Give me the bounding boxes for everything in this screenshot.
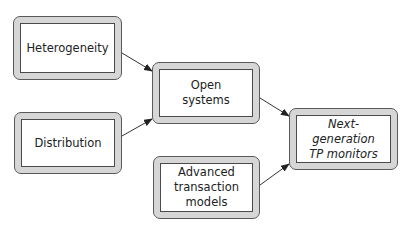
edge-open-systems-to-next-gen [260,98,289,116]
edge-advanced-to-next-gen [260,164,289,185]
node-label: Open systems [182,78,230,108]
node-advanced-transaction-models: Advanced transaction models [153,156,260,219]
node-open-systems: Open systems [152,62,260,124]
node-next-generation-tp-monitors: Next-generation TP monitors [289,108,398,170]
node-label: Heterogeneity [26,41,108,56]
node-distribution: Distribution [14,112,122,174]
edge-heterogeneity-to-open-systems [122,53,152,71]
edge-distribution-to-open-systems [122,119,152,136]
node-heterogeneity: Heterogeneity [13,16,122,80]
node-label: Advanced transaction models [174,165,239,210]
node-label: Distribution [34,136,101,151]
node-label: Next-generation TP monitors [297,117,390,162]
